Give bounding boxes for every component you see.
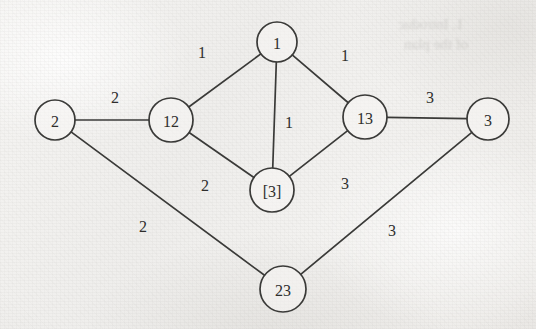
paper-vignette: [0, 0, 536, 329]
figure-canvas: 1. Introducof the plan 1212133[3]23 1112…: [0, 0, 536, 329]
